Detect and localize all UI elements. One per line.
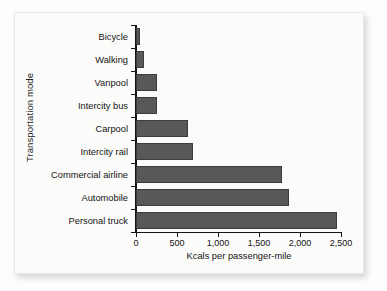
y-tick xyxy=(131,25,136,26)
category-label-walking: Walking xyxy=(28,55,128,65)
bar-vanpool xyxy=(136,74,157,90)
x-tick xyxy=(177,232,178,237)
figure: Transportation mode BicycleWalkingVanpoo… xyxy=(0,0,387,291)
y-tick xyxy=(131,71,136,72)
x-tick-label: 1,500 xyxy=(248,238,271,248)
y-tick xyxy=(131,48,136,49)
x-tick-label: 0 xyxy=(133,238,138,248)
bar-automobile xyxy=(136,189,289,205)
x-axis-title: Kcals per passenger-mile xyxy=(135,251,343,261)
category-label-vanpool: Vanpool xyxy=(28,78,128,88)
x-tick-label: 2,500 xyxy=(330,238,353,248)
bar-personal-truck xyxy=(136,212,337,228)
category-label-personal-truck: Personal truck xyxy=(28,216,128,226)
y-tick xyxy=(131,117,136,118)
bar-intercity-bus xyxy=(136,97,157,113)
category-label-carpool: Carpool xyxy=(28,124,128,134)
x-tick-label: 2,000 xyxy=(289,238,312,248)
bar-intercity-rail xyxy=(136,143,193,159)
y-tick xyxy=(131,94,136,95)
plot-area: Transportation mode BicycleWalkingVanpoo… xyxy=(0,0,387,291)
x-tick-label: 1,000 xyxy=(207,238,230,248)
category-label-group: BicycleWalkingVanpoolIntercity busCarpoo… xyxy=(30,25,132,232)
bar-group xyxy=(136,25,346,232)
category-label-intercity-rail: Intercity rail xyxy=(28,147,128,157)
y-tick xyxy=(131,140,136,141)
y-tick xyxy=(131,232,136,233)
category-label-automobile: Automobile xyxy=(28,193,128,203)
y-tick xyxy=(131,163,136,164)
bar-walking xyxy=(136,51,144,67)
x-tick-label: 500 xyxy=(169,238,184,248)
y-tick xyxy=(131,186,136,187)
category-label-intercity-bus: Intercity bus xyxy=(28,101,128,111)
x-tick xyxy=(136,232,137,237)
x-tick xyxy=(300,232,301,237)
bar-carpool xyxy=(136,120,188,136)
x-tick xyxy=(341,232,342,237)
category-label-bicycle: Bicycle xyxy=(28,32,128,42)
bar-commercial-airline xyxy=(136,166,282,182)
category-label-commercial-airline: Commercial airline xyxy=(28,170,128,180)
y-tick xyxy=(131,209,136,210)
x-tick xyxy=(218,232,219,237)
bar-bicycle xyxy=(136,28,140,44)
x-tick xyxy=(259,232,260,237)
